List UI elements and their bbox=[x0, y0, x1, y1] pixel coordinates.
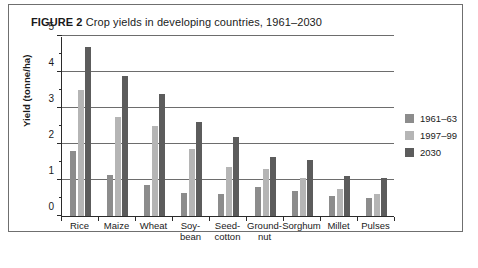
bar bbox=[122, 76, 128, 216]
bar bbox=[263, 169, 269, 216]
y-tick-label: 3 bbox=[48, 92, 54, 103]
bar-group bbox=[70, 37, 91, 216]
x-axis-labels: RiceMaizeWheatSoy-beanSeed-cottonGround-… bbox=[61, 221, 394, 251]
x-tick-label: Maize bbox=[104, 221, 129, 232]
bar bbox=[107, 175, 113, 216]
bar bbox=[233, 137, 239, 216]
bar bbox=[85, 47, 91, 216]
x-tick bbox=[135, 217, 136, 221]
bar bbox=[307, 160, 313, 216]
bar bbox=[218, 194, 224, 216]
bar-group bbox=[366, 37, 387, 216]
bar-group bbox=[329, 37, 350, 216]
figure-frame: FIGURE 2 Crop yields in developing count… bbox=[8, 4, 463, 232]
bar bbox=[78, 90, 84, 216]
x-tick bbox=[394, 217, 395, 221]
chart-legend: 1961–631997–992030 bbox=[405, 110, 478, 161]
y-axis-title: Yield (tonne/ha) bbox=[21, 55, 32, 128]
legend-item[interactable]: 1961–63 bbox=[405, 110, 478, 127]
bar bbox=[152, 126, 158, 216]
bar bbox=[255, 187, 261, 216]
bar-group bbox=[292, 37, 313, 216]
x-tick-label: Wheat bbox=[140, 221, 167, 232]
bar bbox=[300, 178, 306, 216]
legend-swatch-icon bbox=[405, 131, 414, 140]
bar-group bbox=[181, 37, 202, 216]
x-tick-label: Millet bbox=[327, 221, 349, 232]
plot-area: 012345 bbox=[61, 37, 394, 217]
x-tick bbox=[172, 217, 173, 221]
bar bbox=[270, 157, 276, 216]
bar bbox=[144, 185, 150, 216]
y-tick-label: 4 bbox=[48, 56, 54, 67]
legend-swatch-icon bbox=[405, 148, 414, 157]
x-tick-label: Sorghum bbox=[282, 221, 321, 232]
figure-title-text: Crop yields in developing countries, 196… bbox=[86, 16, 322, 28]
figure-number: FIGURE 2 bbox=[31, 16, 83, 28]
bar bbox=[329, 196, 335, 216]
legend-swatch-icon bbox=[405, 114, 414, 123]
legend-label: 1997–99 bbox=[420, 130, 457, 141]
x-tick-label: Soy-bean bbox=[180, 221, 201, 242]
x-tick bbox=[209, 217, 210, 221]
x-tick-label: Rice bbox=[70, 221, 89, 232]
bars-layer bbox=[62, 37, 394, 216]
x-tick bbox=[61, 217, 62, 221]
x-tick-label: Seed-cotton bbox=[215, 221, 241, 242]
x-tick bbox=[357, 217, 358, 221]
bar bbox=[366, 198, 372, 216]
bar bbox=[115, 117, 121, 216]
bar bbox=[196, 122, 202, 216]
bar bbox=[70, 151, 76, 216]
bar bbox=[226, 167, 232, 216]
y-tick-major bbox=[57, 35, 62, 36]
bar bbox=[337, 189, 343, 216]
bar bbox=[374, 194, 380, 216]
bar-group bbox=[107, 37, 128, 216]
x-tick-label: Pulses bbox=[361, 221, 390, 232]
y-tick-label: 1 bbox=[48, 164, 54, 175]
figure-title: FIGURE 2 Crop yields in developing count… bbox=[31, 16, 322, 28]
bar-group bbox=[144, 37, 165, 216]
bar bbox=[292, 191, 298, 216]
gridline bbox=[62, 35, 394, 36]
x-tick bbox=[98, 217, 99, 221]
y-tick-label: 0 bbox=[48, 200, 54, 211]
bar bbox=[381, 178, 387, 216]
x-tick bbox=[320, 217, 321, 221]
bar-group bbox=[218, 37, 239, 216]
legend-label: 2030 bbox=[420, 147, 441, 158]
bar bbox=[189, 149, 195, 216]
x-tick-label: Ground-nut bbox=[247, 221, 282, 242]
y-tick-label: 5 bbox=[48, 20, 54, 31]
bar bbox=[344, 176, 350, 216]
legend-label: 1961–63 bbox=[420, 113, 457, 124]
y-tick-label: 2 bbox=[48, 128, 54, 139]
legend-item[interactable]: 2030 bbox=[405, 144, 478, 161]
bar bbox=[159, 94, 165, 216]
bar-group bbox=[255, 37, 276, 216]
bar bbox=[181, 193, 187, 216]
legend-item[interactable]: 1997–99 bbox=[405, 127, 478, 144]
